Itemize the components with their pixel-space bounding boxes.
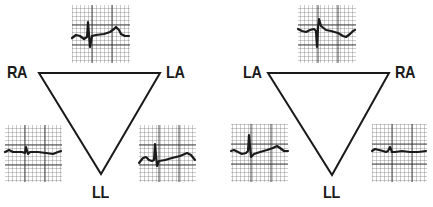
ecg-strip-bottom-right (139, 125, 196, 182)
einthoven-diagram (0, 0, 433, 207)
label-panel1-top-right: LA (166, 64, 184, 81)
label-panel2-top-left: LA (243, 64, 261, 81)
ecg-strip-bottom-left (5, 125, 62, 182)
label-panel2-bottom: LL (323, 184, 340, 201)
ecg-strip-bottom-left (231, 124, 288, 182)
ecg-strip-top (72, 5, 130, 63)
label-panel2-top-right: RA (395, 64, 415, 81)
ecg-grid (298, 5, 356, 63)
ecg-strip-bottom-right (372, 124, 427, 182)
label-panel1-top-left: RA (7, 64, 27, 81)
label-panel1-bottom: LL (92, 184, 109, 201)
panel-normal (5, 5, 196, 182)
panel-reversed (231, 5, 427, 182)
ecg-strip-top (298, 5, 356, 63)
